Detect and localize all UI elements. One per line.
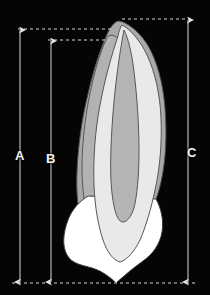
- tooth-measurement-figure: A B C: [0, 0, 210, 295]
- dimension-label-b: B: [42, 152, 60, 165]
- dimension-label-c: C: [183, 146, 201, 159]
- figure-canvas: [0, 0, 210, 295]
- tooth-illustration: [64, 21, 166, 283]
- dimension-label-a: A: [11, 149, 29, 162]
